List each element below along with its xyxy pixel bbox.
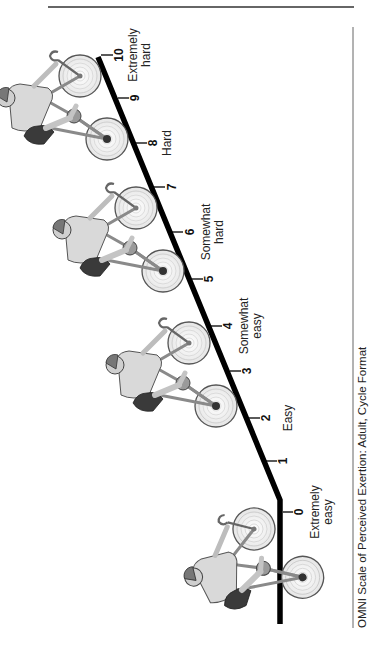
label-hard: Hard bbox=[160, 130, 174, 156]
label-somewhat-hard: Somewhat hard bbox=[199, 203, 226, 260]
tick-5: 5 bbox=[202, 275, 216, 282]
tick-4: 4 bbox=[221, 322, 235, 329]
label-extremely-hard: Extremely hard bbox=[126, 28, 153, 81]
cyclist-somewhat-hard bbox=[53, 184, 184, 293]
figure-caption: OMNI Scale of Perceived Exertion: Adult,… bbox=[356, 346, 368, 628]
tick-1: 1 bbox=[276, 457, 290, 464]
scale-ticks bbox=[101, 55, 293, 512]
tick-0: 0 bbox=[292, 508, 306, 515]
svg-text:hard: hard bbox=[139, 43, 153, 67]
svg-text:Extremely: Extremely bbox=[308, 485, 322, 538]
svg-text:hard: hard bbox=[212, 220, 226, 244]
tick-7: 7 bbox=[165, 183, 179, 190]
svg-text:Somewhat: Somewhat bbox=[199, 203, 213, 260]
svg-text:easy: easy bbox=[321, 499, 335, 524]
svg-text:Hard: Hard bbox=[160, 130, 174, 156]
cyclist-somewhat-easy bbox=[106, 319, 237, 428]
label-extremely-easy: Extremely easy bbox=[308, 485, 335, 538]
tick-8: 8 bbox=[146, 139, 160, 146]
tick-9: 9 bbox=[128, 94, 142, 101]
svg-text:easy: easy bbox=[250, 313, 264, 338]
cyclist-extremely-hard bbox=[0, 52, 128, 161]
tick-3: 3 bbox=[240, 367, 254, 374]
tick-numbers: 10 9 8 7 6 5 4 3 2 1 0 bbox=[112, 48, 306, 515]
label-somewhat-easy: Somewhat easy bbox=[237, 297, 264, 354]
tick-2: 2 bbox=[259, 414, 273, 421]
label-easy: Easy bbox=[281, 405, 295, 432]
svg-text:Easy: Easy bbox=[281, 405, 295, 432]
svg-text:Extremely: Extremely bbox=[126, 28, 140, 81]
svg-text:Somewhat: Somewhat bbox=[237, 297, 251, 354]
tick-10: 10 bbox=[112, 48, 126, 62]
tick-6: 6 bbox=[183, 228, 197, 235]
omni-scale-figure: 10 9 8 7 6 5 4 3 2 1 0 Extremely hard Ha… bbox=[0, 0, 371, 652]
